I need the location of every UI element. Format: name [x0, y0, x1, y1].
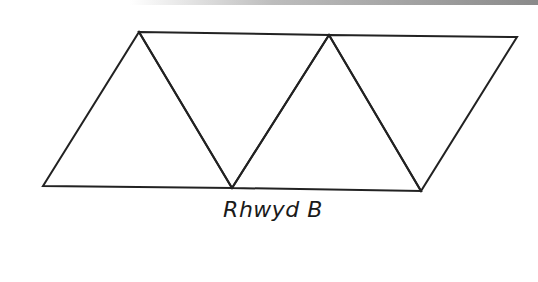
triangle-4 — [329, 35, 517, 191]
triangle-net — [0, 0, 538, 282]
triangle-2 — [139, 32, 329, 188]
triangle-1 — [43, 32, 232, 188]
triangle-3 — [232, 35, 421, 191]
net-caption: Rhwyd B — [0, 197, 538, 222]
